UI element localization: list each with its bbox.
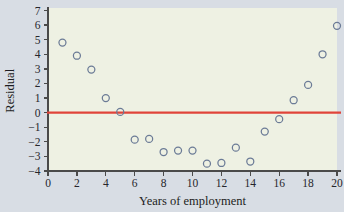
data-point bbox=[131, 136, 138, 143]
data-point bbox=[102, 95, 109, 102]
x-tick-label: 8 bbox=[161, 177, 167, 189]
y-tick-label: −1 bbox=[28, 121, 40, 133]
data-point bbox=[319, 51, 326, 58]
residual-plot-figure: −4−3−2−101234567 02468101214161820 Years… bbox=[0, 0, 344, 212]
data-point bbox=[232, 144, 239, 151]
y-tick-label: 7 bbox=[35, 5, 41, 17]
y-tick-label: 6 bbox=[35, 19, 41, 31]
y-tick-label: 1 bbox=[35, 92, 41, 104]
x-axis: 02468101214161820 bbox=[45, 171, 343, 189]
x-tick-label: 2 bbox=[74, 177, 80, 189]
y-tick-label: 4 bbox=[35, 48, 41, 60]
y-tick-label: 0 bbox=[35, 107, 41, 119]
x-tick-label: 4 bbox=[103, 177, 109, 189]
x-tick-label: 14 bbox=[245, 177, 257, 189]
y-tick-label: −3 bbox=[28, 150, 40, 162]
data-point bbox=[189, 147, 196, 154]
x-tick-label: 20 bbox=[331, 177, 343, 189]
data-point bbox=[247, 158, 254, 165]
x-tick-label: 6 bbox=[132, 177, 138, 189]
data-points bbox=[59, 22, 341, 167]
data-point bbox=[88, 66, 95, 73]
data-point bbox=[146, 135, 153, 142]
data-point bbox=[261, 128, 268, 135]
scatter-chart: −4−3−2−101234567 02468101214161820 Years… bbox=[0, 0, 344, 212]
y-tick-label: −2 bbox=[28, 136, 40, 148]
y-tick-label: 2 bbox=[35, 77, 41, 89]
data-point bbox=[59, 39, 66, 46]
data-point bbox=[218, 159, 225, 166]
x-axis-title: Years of employment bbox=[139, 194, 247, 208]
x-tick-label: 0 bbox=[45, 177, 51, 189]
data-point bbox=[203, 160, 210, 167]
data-point bbox=[305, 81, 312, 88]
data-point bbox=[290, 97, 297, 104]
y-tick-label: 3 bbox=[35, 63, 41, 75]
data-point bbox=[175, 147, 182, 154]
y-axis-title: Residual bbox=[3, 68, 17, 112]
y-axis: −4−3−2−101234567 bbox=[28, 5, 48, 178]
y-tick-label: −4 bbox=[28, 165, 40, 177]
y-tick-label: 5 bbox=[35, 34, 41, 46]
x-tick-label: 10 bbox=[187, 177, 199, 189]
x-tick-label: 18 bbox=[302, 177, 314, 189]
data-point bbox=[160, 149, 167, 156]
x-tick-label: 16 bbox=[273, 177, 285, 189]
data-point bbox=[73, 52, 80, 59]
data-point bbox=[334, 22, 341, 29]
data-point bbox=[276, 116, 283, 123]
x-tick-label: 12 bbox=[216, 177, 228, 189]
